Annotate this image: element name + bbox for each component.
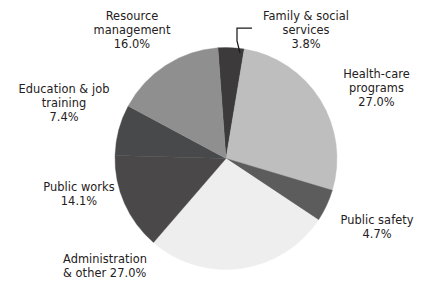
slice-label-public-works: Public works 14.1%	[14, 180, 144, 208]
slice-label-public-safety: Public safety 4.7%	[331, 213, 423, 241]
slice-label-family-social-services: Family & social services 3.8%	[243, 9, 369, 52]
slice-label-administration-other: Administration & other 27.0%	[63, 252, 213, 280]
slice-label-health-care-programs: Health-care programs 27.0%	[330, 67, 423, 110]
pie-slice-group	[115, 48, 337, 270]
pie-chart-page: Resource management 16.0% Family & socia…	[0, 0, 423, 298]
slice-label-education-job-training: Education & job training 7.4%	[2, 82, 126, 125]
slice-label-resource-management: Resource management 16.0%	[62, 9, 202, 52]
